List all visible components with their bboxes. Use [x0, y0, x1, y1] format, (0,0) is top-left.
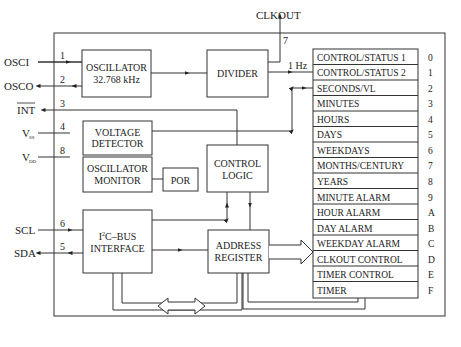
register-row-address: 0: [428, 53, 433, 63]
pin-sda-label: SDA: [14, 247, 36, 259]
oscillator-monitor-label-2: MONITOR: [94, 175, 141, 186]
oscillator-label: OSCILLATOR: [86, 62, 147, 73]
register-row-name: SECONDS/VL: [317, 84, 376, 94]
register-row-address: F: [428, 286, 433, 296]
register-row-name: WEEKDAYS: [317, 146, 369, 156]
control-logic-label-2: LOGIC: [222, 170, 253, 181]
register-row-address: 1: [428, 68, 433, 78]
data-bus-inner: [122, 273, 237, 303]
register-row-address: E: [428, 270, 434, 280]
register-row-address: 5: [428, 130, 433, 140]
register-row-address: 6: [428, 146, 433, 156]
i2c-to-control: [152, 192, 227, 220]
divider-label: DIVIDER: [217, 68, 258, 79]
register-row-name: HOUR ALARM: [317, 208, 381, 218]
por-label: POR: [171, 175, 191, 186]
voltage-detector-label-1: VOLTAGE: [95, 127, 141, 138]
pin-num-4: 4: [60, 121, 65, 132]
pin-vdd-sub: DD: [29, 159, 37, 164]
pin-num-1: 1: [60, 50, 65, 61]
register-row-name: TIMER CONTROL: [317, 270, 394, 280]
oscillator-monitor-label-1: OSCILLATOR: [87, 163, 148, 174]
block-diagram: OSCI OSCO INT V SS V DD SCL SDA CLKOUT 1…: [0, 0, 461, 347]
register-row-address: 3: [428, 99, 433, 109]
register-row-name: CLKOUT CONTROL: [317, 255, 403, 265]
register-row-address: B: [428, 224, 434, 234]
pin-vss-sub: SS: [29, 135, 35, 140]
one-hz-label: 1 Hz: [288, 60, 308, 71]
register-row-name: TIMER: [317, 286, 347, 296]
pin-osci-label: OSCI: [4, 56, 29, 68]
register-row-name: MONTHS/CENTURY: [317, 161, 404, 171]
i2c-label-2: INTERFACE: [90, 243, 144, 254]
register-row-name: CONTROL/STATUS 2: [317, 68, 406, 78]
pin-num-6: 6: [60, 218, 65, 229]
register-row-name: YEARS: [317, 177, 348, 187]
register-row-address: 7: [428, 161, 433, 171]
pin-clkout-label: CLKOUT: [256, 9, 301, 21]
pin-num-3: 3: [60, 98, 65, 109]
register-row-name: CONTROL/STATUS 1: [317, 53, 406, 63]
pin-int-label: INT: [17, 104, 36, 116]
register-row-address: D: [428, 255, 435, 265]
pin-scl-label: SCL: [15, 224, 35, 236]
register-row-address: 8: [428, 177, 433, 187]
register-row-address: 4: [428, 115, 433, 125]
pin-num-5: 5: [60, 241, 65, 252]
pin-num-8: 8: [60, 145, 65, 156]
bus-double-arrow-icon: [158, 298, 205, 314]
address-register-label-1: ADDRESS: [216, 240, 262, 251]
clkout-arrow: [268, 16, 280, 62]
register-row-address: C: [428, 239, 434, 249]
address-fat-arrow-icon: [269, 240, 313, 264]
pin-num-7: 7: [283, 35, 288, 46]
oscillator-freq-label: 32.768 kHz: [93, 74, 140, 85]
control-logic-label-1: CONTROL: [214, 158, 261, 169]
register-row-name: MINUTE ALARM: [317, 193, 391, 203]
register-row-name: DAYS: [317, 130, 342, 140]
register-row-name: MINUTES: [317, 99, 359, 109]
pin-num-2: 2: [60, 74, 65, 85]
pin-osco-label: OSCO: [4, 80, 33, 92]
register-row-name: HOURS: [317, 115, 349, 125]
voltage-detector-label-2: DETECTOR: [91, 138, 143, 149]
register-row-address: A: [428, 208, 435, 218]
i2c-label-1: I2C–BUS: [99, 231, 136, 242]
register-row-name: DAY ALARM: [317, 224, 373, 234]
register-row-name: WEEKDAY ALARM: [317, 239, 401, 249]
address-register-label-2: REGISTER: [215, 252, 263, 263]
register-row-address: 2: [428, 84, 433, 94]
register-row-address: 9: [428, 193, 433, 203]
